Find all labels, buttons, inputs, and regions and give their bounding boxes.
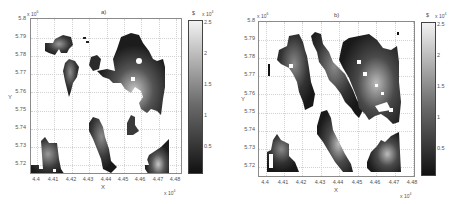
x-tick: 4.46 xyxy=(132,176,148,182)
x-tick: 4.41 xyxy=(45,176,61,182)
colorbar-tick: 2 xyxy=(204,50,207,56)
x-tick: 4.42 xyxy=(293,179,309,185)
y-tick: 5.73 xyxy=(233,144,255,150)
y-tick: 5.8 xyxy=(233,17,255,23)
y-tick: 5.8 xyxy=(4,15,26,21)
colorbar-tick: 2.5 xyxy=(204,19,212,25)
colorbar-tick: 1 xyxy=(437,114,440,120)
y-axis-label-a: Y xyxy=(8,94,12,100)
y-tick: 5.77 xyxy=(4,69,26,75)
y-multiplier-b: x 106 xyxy=(257,12,268,19)
x-tick: 4.45 xyxy=(349,179,365,185)
x-tick: 4.44 xyxy=(330,179,346,185)
x-tick: 4.45 xyxy=(115,176,131,182)
colorbar-tick: 1.5 xyxy=(437,83,445,89)
x-tick: 4.4 xyxy=(28,176,44,182)
y-axis-label-b: Y xyxy=(241,96,245,102)
colorbar-tick: 2.5 xyxy=(437,21,445,27)
plot-area-a xyxy=(30,18,182,174)
x-axis-label-a: X xyxy=(101,184,105,190)
colorbar-multiplier-a: x 104 xyxy=(202,10,213,17)
colorbar-tick: 0.5 xyxy=(437,145,445,151)
y-tick: 5.74 xyxy=(233,126,255,132)
y-tick: 5.75 xyxy=(4,106,26,112)
x-tick: 4.48 xyxy=(167,176,183,182)
y-tick: 5.79 xyxy=(233,35,255,41)
x-tick: 4.43 xyxy=(312,179,328,185)
colorbar-label-a: $ xyxy=(192,10,195,16)
colorbar-tick: 0.5 xyxy=(204,143,212,149)
y-tick: 5.79 xyxy=(4,33,26,39)
x-tick: 4.47 xyxy=(386,179,402,185)
y-tick: 5.74 xyxy=(4,124,26,130)
y-tick: 5.75 xyxy=(233,108,255,114)
colorbar-tick: 2 xyxy=(437,52,440,58)
figure-a: a) x 106 xyxy=(0,0,226,204)
figure-b: b) x 106 xyxy=(226,0,452,204)
x-tick: 4.42 xyxy=(63,176,79,182)
colorbar-label-b: $ xyxy=(426,12,429,18)
y-tick: 5.78 xyxy=(4,51,26,57)
y-tick: 5.73 xyxy=(4,142,26,148)
heatmap-b xyxy=(259,22,414,176)
x-tick: 4.43 xyxy=(80,176,96,182)
colorbar-tick: 1.5 xyxy=(204,81,212,87)
colorbar-tick: 1 xyxy=(204,112,207,118)
y-tick: 5.72 xyxy=(233,162,255,168)
heatmap-a xyxy=(31,19,181,173)
y-tick: 5.78 xyxy=(233,53,255,59)
colorbar-a xyxy=(188,20,203,174)
colorbar-multiplier-b: x 104 xyxy=(435,12,446,19)
x-tick: 4.46 xyxy=(367,179,383,185)
y-tick: 5.72 xyxy=(4,160,26,166)
x-multiplier-a: x 104 xyxy=(164,189,175,196)
x-multiplier-b: x 104 xyxy=(400,192,411,199)
x-axis-label-b: X xyxy=(334,187,338,193)
plot-area-b xyxy=(258,21,415,177)
x-tick: 4.44 xyxy=(98,176,114,182)
y-tick: 5.77 xyxy=(233,71,255,77)
x-tick: 4.48 xyxy=(404,179,420,185)
chart-title-a: a) xyxy=(101,9,106,15)
y-multiplier-a: x 106 xyxy=(27,10,38,17)
x-tick: 4.4 xyxy=(257,179,273,185)
x-tick: 4.47 xyxy=(150,176,166,182)
chart-title-b: b) xyxy=(334,12,339,18)
colorbar-b xyxy=(421,22,436,176)
x-tick: 4.41 xyxy=(275,179,291,185)
